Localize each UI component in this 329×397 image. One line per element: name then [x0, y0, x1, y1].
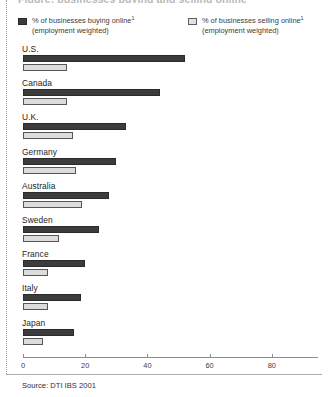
- chart-legend: % of businesses buying online1(employmen…: [18, 16, 318, 42]
- bar-buying-online: [23, 55, 185, 62]
- x-axis-tick-label: 40: [143, 361, 151, 370]
- x-axis-tick-label: 0: [21, 361, 25, 370]
- bar-group: U.S.: [0, 44, 329, 76]
- legend-label-selling-line2: (employment weighted): [202, 26, 279, 35]
- bar-buying-online: [23, 123, 126, 130]
- x-axis-tick: [147, 354, 148, 358]
- bar-buying-online: [23, 329, 74, 336]
- x-axis-tick: [210, 354, 211, 358]
- bar-buying-online: [23, 89, 160, 96]
- legend-swatch-selling-icon: [188, 18, 197, 25]
- x-axis-tick: [85, 354, 86, 358]
- bar-selling-online: [23, 303, 48, 310]
- source-note: Source: DTI IBS 2001: [22, 381, 96, 390]
- bar-group: Sweden: [0, 215, 329, 247]
- category-label: U.K.: [22, 112, 39, 122]
- legend-label-buying-line1: % of businesses buying online: [32, 16, 131, 25]
- bar-selling-online: [23, 64, 67, 71]
- category-label: Sweden: [22, 215, 53, 225]
- legend-swatch-buying-icon: [18, 18, 27, 25]
- x-axis-tick-label: 60: [205, 361, 213, 370]
- bar-group: Italy: [0, 283, 329, 315]
- x-axis-line: [23, 357, 318, 358]
- bar-group: Japan: [0, 318, 329, 350]
- category-label: Italy: [22, 283, 38, 293]
- x-axis-tick: [272, 354, 273, 358]
- bar-buying-online: [23, 192, 109, 199]
- bar-buying-online: [23, 226, 99, 233]
- bar-selling-online: [23, 98, 67, 105]
- clipped-figure-title: Figure: businesses buying and selling on…: [18, 0, 318, 3]
- legend-footnote-buying: 1: [131, 15, 134, 21]
- x-axis-tick: [23, 354, 24, 358]
- bar-group: France: [0, 249, 329, 281]
- category-label: Japan: [22, 318, 45, 328]
- bar-buying-online: [23, 158, 116, 165]
- bar-group: Germany: [0, 147, 329, 179]
- legend-label-buying-line2: (employment weighted): [32, 26, 109, 35]
- legend-item-selling: % of businesses selling online1(employme…: [188, 16, 304, 35]
- category-label: Germany: [22, 147, 57, 157]
- bar-group: Canada: [0, 78, 329, 110]
- bar-selling-online: [23, 201, 82, 208]
- bar-group: U.K.: [0, 112, 329, 144]
- legend-label-buying: % of businesses buying online1(employmen…: [32, 16, 134, 35]
- category-label: U.S.: [22, 44, 39, 54]
- bar-buying-online: [23, 294, 81, 301]
- category-label: France: [22, 249, 49, 259]
- bar-selling-online: [23, 132, 73, 139]
- figure-panel: Figure: businesses buying and selling on…: [0, 0, 329, 397]
- source-divider: [6, 374, 322, 375]
- x-axis-tick-label: 20: [81, 361, 89, 370]
- legend-item-buying: % of businesses buying online1(employmen…: [18, 16, 134, 35]
- bar-selling-online: [23, 269, 48, 276]
- legend-label-selling: % of businesses selling online1(employme…: [202, 16, 304, 35]
- bar-chart-plot: U.S.CanadaU.K.GermanyAustraliaSwedenFran…: [0, 44, 329, 360]
- legend-footnote-selling: 1: [301, 15, 304, 21]
- bar-selling-online: [23, 167, 76, 174]
- bar-group: Australia: [0, 181, 329, 213]
- x-axis-tick-label: 80: [268, 361, 276, 370]
- bar-selling-online: [23, 235, 59, 242]
- bar-selling-online: [23, 338, 43, 345]
- category-label: Australia: [22, 181, 55, 191]
- legend-label-selling-line1: % of businesses selling online: [202, 16, 301, 25]
- bar-buying-online: [23, 260, 85, 267]
- category-label: Canada: [22, 78, 52, 88]
